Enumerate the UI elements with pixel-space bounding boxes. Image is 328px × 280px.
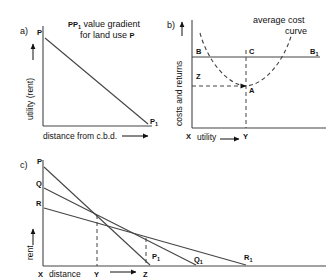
panel-c-intercept-r: R [36,199,42,208]
panel-c-x-axis-start: X [38,270,43,279]
panel-c-endpoint-q1: Q1 [194,255,203,265]
panel-a-caption-line2-text: for land use [80,30,130,40]
panel-a-caption-bold: PP [68,20,78,29]
panel-c-letter: c) [20,160,28,170]
panel-b-x-axis-end: Y [243,132,248,141]
panel-c-x-axis-label: distance [49,269,81,279]
panel-b-letter: b) [167,20,175,30]
panel-b-point-z: Z [196,72,201,81]
panel-c-endpoint-r1-sub: 1 [249,257,252,263]
panel-c-y-axis-label: rent [25,245,35,260]
panel-b-point-a: A [249,86,255,95]
panel-c-endpoint-p1: P1 [152,252,160,262]
panel-a-caption-line2-bold: P [130,31,135,40]
panel-a-letter: a) [20,26,28,36]
panel-c-endpoint-p1-sub: 1 [157,256,160,262]
panel-a-y-axis-label: utility (rent) [25,78,35,120]
panel-b-y-axis-label: costs and returns [174,61,184,126]
panel-b-point-b: B [196,47,202,56]
panel-b-x-axis-start: X [186,132,191,141]
panel-a-x-axis-label: distance from c.b.d. [43,131,117,141]
panel-b-caption-line1: average cost [253,15,305,25]
panel-b-caption-line2: curve [285,26,307,36]
panel-b-x-axis-label: utility [197,132,217,142]
panel-c-tick-z: Z [143,270,148,279]
panel-c-intercept-q: Q [36,179,42,188]
panel-a-caption-line1: PP1 value gradient [68,19,141,30]
panel-c-endpoint-q1-sub: 1 [200,259,203,265]
panel-a-point-p: P [37,28,42,37]
panel-a-caption-line2: for land use P [80,30,135,40]
panel-a-caption-rest: value gradient [81,19,141,29]
panel-c-intercept-p: P [37,157,42,166]
panel-b-point-c: C [249,47,255,56]
panel-a-point-p1-sub: 1 [155,121,158,127]
panel-b-point-b1: B1 [310,47,318,57]
figure-container: a) PP1 value gradient for land use P uti… [0,0,328,280]
panel-b-point-b1-sub: 1 [315,51,318,57]
panel-c-endpoint-r1: R1 [244,253,252,263]
panel-a-point-p1: P1 [150,117,158,127]
panel-c-tick-y: Y [94,270,99,279]
